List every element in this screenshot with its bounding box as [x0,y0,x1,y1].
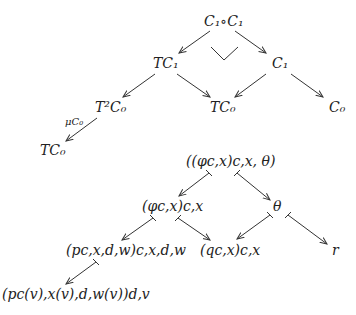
arrow-c1c1-c1 [235,31,266,53]
mapsto-phi-q [178,218,210,240]
arrow-tc1-t2c0 [123,74,155,97]
node-p: (pc,x,d,w)c,x,d,w [66,243,186,257]
pullback-corner [211,47,238,60]
node-c0: C₀ [329,100,345,114]
mapsto-root-theta [237,173,270,200]
node-pv: (pc(v),x(v),d,w(v))d,v [2,287,150,301]
node-phi: (φc,x)c,x [142,199,203,213]
mapsto-root-phi [179,173,209,196]
mapsto-phi-p [122,218,153,240]
node-t2c0: T²C₀ [95,100,126,114]
arrow-c1-c0 [291,74,323,97]
node-q: (qc,x)c,x [200,243,260,257]
arrow-tc1-tc0 [177,74,210,97]
mapsto-theta-q [237,215,270,239]
node-tc1: TC₁ [153,56,179,70]
mapsto-p-pv [66,262,96,284]
edge-label-mu: μC₀ [65,117,83,127]
node-r: r [332,243,339,257]
node-theta: θ [273,199,281,213]
arrow-c1-tc0 [235,74,266,97]
node-tc0-bottom: TC₀ [40,143,66,157]
mapsto-theta-r [288,215,327,244]
node-c1: C₁ [272,56,288,70]
node-tc0-mid: TC₀ [210,100,236,114]
arrow-c1c1-tc1 [179,31,210,53]
node-c1-compose-c1: C₁∘C₁ [204,14,244,28]
node-root-pair: ((φc,x)c,x, θ) [186,154,275,168]
